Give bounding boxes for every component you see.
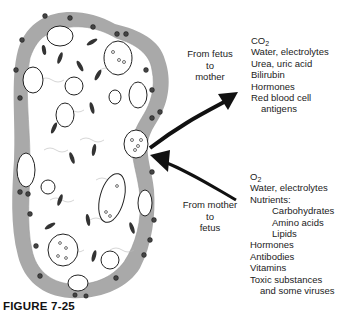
placenta-exchange-figure: From fetus to mother From mother to fetu… <box>0 0 342 320</box>
list-item: Antibodies <box>250 251 334 262</box>
figure-caption: FIGURE 7-25 <box>3 300 75 312</box>
list-item: antigens <box>251 103 329 114</box>
list-item: Water, electrolytes <box>251 46 329 57</box>
fetus-to-mother-label: From fetus to mother <box>170 48 250 83</box>
list-item: Nutrients: <box>250 194 334 205</box>
label-line: to <box>170 60 250 72</box>
arrow-mother-to-fetus <box>160 160 236 200</box>
mother-to-fetus-list: O2 Water, electrolytes Nutrients: Carboh… <box>250 171 334 296</box>
list-item: Urea, uric acid <box>251 58 329 69</box>
co2-item: CO2 <box>251 35 329 46</box>
fetus-to-mother-list: CO2 Water, electrolytes Urea, uric acid … <box>251 35 329 115</box>
list-item: Amino acids <box>250 217 334 228</box>
list-item: Bilirubin <box>251 69 329 80</box>
label-line: From mother <box>165 199 255 211</box>
list-item: Water, electrolytes <box>250 182 334 193</box>
label-line: fetus <box>165 222 255 234</box>
label-line: mother <box>170 71 250 83</box>
mother-to-fetus-label: From mother to fetus <box>165 199 255 234</box>
label-line: to <box>165 211 255 223</box>
list-item: Carbohydrates <box>250 205 334 216</box>
list-item: Lipids <box>250 228 334 239</box>
list-item: Hormones <box>251 81 329 92</box>
list-item: Vitamins <box>250 262 334 273</box>
list-item: Red blood cell <box>251 92 329 103</box>
o2-item: O2 <box>250 171 334 182</box>
list-item: Hormones <box>250 239 334 250</box>
label-line: From fetus <box>170 48 250 60</box>
list-item: Toxic substances <box>250 274 334 285</box>
list-item: and some viruses <box>250 285 334 296</box>
